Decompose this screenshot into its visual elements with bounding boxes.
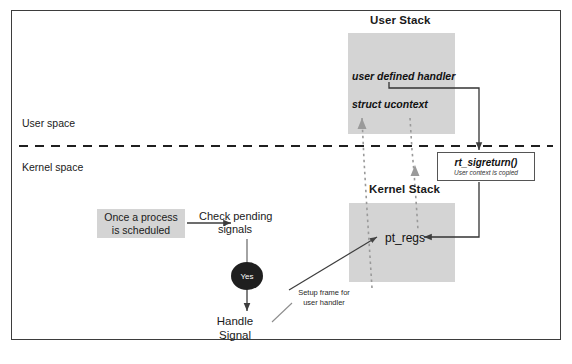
rt-sigreturn-box: rt_sigreturn() User context is copied xyxy=(437,152,535,181)
setup-frame-annotation: Setup frame for user handler xyxy=(285,288,363,308)
diagram-canvas: User Stack Kernel Stack user defined han… xyxy=(0,0,572,364)
rt-sigreturn-title: rt_sigreturn() xyxy=(455,157,518,168)
user-space-label: User space xyxy=(22,117,75,129)
flow-decision-label: Yes xyxy=(240,272,253,281)
kernel-stack-entry-pt-regs: pt_regs xyxy=(385,231,425,245)
kernel-space-label: Kernel space xyxy=(22,161,83,173)
user-stack-entry-struct-ucontext: struct ucontext xyxy=(352,98,428,110)
user-stack-title: User Stack xyxy=(370,14,430,28)
flow-start-node: Once a process is scheduled xyxy=(97,209,185,238)
user-stack-entry-user-defined-handler: user defined handler xyxy=(352,70,455,82)
kernel-stack-title: Kernel Stack xyxy=(369,183,440,197)
flow-check-node: Check pending signals xyxy=(199,210,271,236)
rt-sigreturn-note: User context is copied xyxy=(454,169,518,176)
user-stack-box xyxy=(348,33,455,134)
flow-end-node: Handle Signal xyxy=(202,315,268,342)
flow-decision-node: Yes xyxy=(231,262,263,290)
